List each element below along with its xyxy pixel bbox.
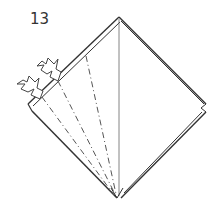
origami-diagram <box>0 0 222 201</box>
paper-diamond <box>28 17 206 198</box>
push-arrow-lower <box>17 76 43 99</box>
push-arrow-upper <box>37 58 61 81</box>
